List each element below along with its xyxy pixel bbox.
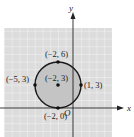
point-label-left: (−5, 3) xyxy=(6,74,29,84)
x-axis-arrow-icon xyxy=(117,106,124,111)
y-axis-label: y xyxy=(68,3,73,13)
point-label-right: (1, 3) xyxy=(84,80,103,90)
point-label-bottom: (−2, 0) xyxy=(44,111,67,121)
point-top xyxy=(56,60,60,64)
x-axis-label: x xyxy=(126,103,131,113)
y-axis-arrow-icon xyxy=(71,12,76,19)
coordinate-plane-figure: x y O (−2, 6) (−5, 3) (−2, 3) (1, 3) (−2… xyxy=(0,0,134,137)
point-label-top: (−2, 6) xyxy=(45,49,68,59)
point-right xyxy=(79,83,83,87)
point-bottom xyxy=(56,106,60,110)
point-center xyxy=(56,83,60,87)
point-label-center: (−2, 3) xyxy=(45,73,68,83)
point-left xyxy=(33,83,37,87)
